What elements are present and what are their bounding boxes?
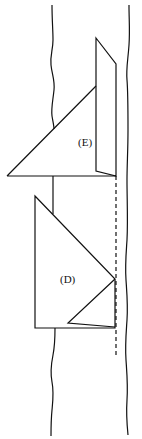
diagram-canvas: (E) (D) [0, 0, 142, 439]
label-e: (E) [78, 136, 92, 149]
shape-d-inner-triangle [68, 279, 115, 327]
left-wavy-wall-top [51, 5, 54, 129]
right-wavy-wall [126, 5, 130, 435]
shape-e-triangle [7, 86, 116, 176]
shape-d-outline [35, 196, 115, 328]
shape-e-upright [96, 38, 116, 176]
label-d: (D) [60, 273, 76, 286]
left-wavy-wall-bottom [51, 328, 55, 436]
